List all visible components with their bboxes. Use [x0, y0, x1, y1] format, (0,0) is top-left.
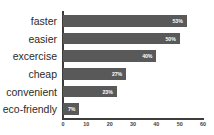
- bar-row: 7%: [63, 103, 203, 115]
- x-tick-40: 40: [153, 121, 159, 127]
- x-axis-line: [62, 118, 204, 120]
- bar-row: 40%: [63, 50, 203, 62]
- bar-easier[interactable]: 50%: [63, 33, 180, 45]
- x-tick-30: 30: [130, 121, 136, 127]
- x-tick-10: 10: [83, 121, 89, 127]
- bar-chart: fastereasierexcercisecheapconvenienteco-…: [0, 0, 214, 135]
- bar-convenient[interactable]: 23%: [63, 86, 117, 98]
- x-tick-0: 0: [62, 121, 65, 127]
- x-tick-50: 50: [177, 121, 183, 127]
- bar-row: 53%: [63, 15, 203, 27]
- bar-cheap[interactable]: 27%: [63, 68, 126, 80]
- bar-eco-friendly[interactable]: 7%: [63, 103, 79, 115]
- bar-value-label: 40%: [142, 53, 152, 59]
- category-axis-labels: fastereasierexcercisecheapconvenienteco-…: [0, 12, 60, 118]
- category-label-eco-friendly: eco-friendly: [3, 104, 57, 115]
- bar-row: 50%: [63, 33, 203, 45]
- category-label-cheap: cheap: [28, 68, 57, 79]
- bar-value-label: 23%: [103, 89, 113, 95]
- bar-value-label: 50%: [166, 36, 176, 42]
- category-label-easier: easier: [28, 33, 57, 44]
- x-tick-60: 60: [200, 121, 206, 127]
- plot-area: 53%50%40%27%23%7%: [63, 12, 203, 118]
- bar-value-label: 27%: [112, 71, 122, 77]
- bar-row: 23%: [63, 86, 203, 98]
- category-label-faster: faster: [31, 15, 57, 26]
- bar-faster[interactable]: 53%: [63, 15, 187, 27]
- bar-row: 27%: [63, 68, 203, 80]
- bar-value-label: 53%: [173, 18, 183, 24]
- bar-excercise[interactable]: 40%: [63, 50, 156, 62]
- category-label-convenient: convenient: [6, 86, 57, 97]
- x-tick-20: 20: [107, 121, 113, 127]
- bar-value-label: 7%: [68, 106, 75, 112]
- category-label-excercise: excercise: [13, 51, 57, 62]
